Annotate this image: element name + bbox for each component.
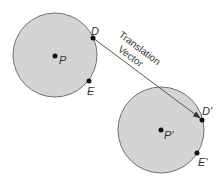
translation-diagram: P D E P' D' E' Translation Vector <box>0 0 222 183</box>
label-e: E <box>87 85 95 97</box>
label-p-prime: P' <box>164 129 174 141</box>
point-e <box>87 79 92 84</box>
label-d-prime: D' <box>202 105 213 117</box>
label-p: P <box>59 54 67 66</box>
point-p <box>53 54 58 59</box>
label-d: D <box>91 25 99 37</box>
point-e-prime <box>195 151 200 156</box>
point-p-prime <box>159 128 164 133</box>
label-e-prime: E' <box>198 156 208 168</box>
point-d-prime <box>200 118 205 123</box>
